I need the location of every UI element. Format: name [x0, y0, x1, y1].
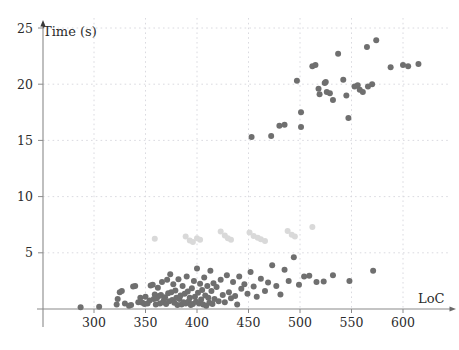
data-point [132, 283, 138, 289]
data-point [152, 236, 158, 242]
data-point [205, 295, 211, 301]
y-tick-label: 10 [17, 189, 33, 204]
data-point [273, 283, 279, 289]
data-point [276, 123, 282, 129]
data-point [119, 288, 125, 294]
scatter-plot-figure: 300350400450500550600510152025 Time (s) … [0, 0, 459, 350]
data-point [309, 224, 315, 230]
data-point [388, 64, 394, 70]
data-point [155, 285, 161, 291]
x-axis-title: LoC [418, 291, 444, 306]
data-point [214, 284, 220, 290]
x-tick-label: 350 [134, 315, 158, 330]
y-tick-label: 25 [17, 21, 33, 36]
data-point [244, 291, 250, 297]
data-point [298, 109, 304, 115]
data-point [159, 279, 165, 285]
data-point [277, 291, 283, 297]
data-point [327, 90, 333, 96]
data-point [207, 268, 213, 274]
tick-marks [38, 28, 403, 313]
data-point [197, 281, 203, 287]
data-point [226, 289, 232, 295]
data-point [335, 51, 341, 57]
data-point [249, 134, 255, 140]
x-tick-label: 400 [185, 315, 209, 330]
data-point [373, 37, 379, 43]
data-point [96, 304, 102, 310]
data-point [369, 81, 375, 87]
data-point [254, 294, 260, 300]
data-point [175, 276, 181, 282]
x-tick-label: 550 [340, 315, 364, 330]
data-point [172, 287, 178, 293]
data-point [340, 77, 346, 83]
data-point [222, 299, 228, 305]
scatter-series-low-time-group [78, 254, 377, 310]
data-point [345, 115, 351, 121]
data-point [128, 302, 134, 308]
data-point [330, 272, 336, 278]
data-point [78, 304, 84, 310]
scatter-series-high-time-group [249, 37, 422, 140]
data-point [114, 302, 120, 308]
data-point [262, 288, 268, 294]
data-point [296, 282, 302, 288]
data-point [234, 302, 240, 308]
data-point [316, 86, 322, 92]
x-tick-label: 450 [237, 315, 261, 330]
x-tick-label: 500 [288, 315, 312, 330]
data-point [346, 278, 352, 284]
data-point [191, 278, 197, 284]
data-point [313, 279, 319, 285]
data-point [294, 78, 300, 84]
data-point [343, 92, 349, 98]
data-point [292, 234, 298, 240]
data-point [164, 277, 170, 283]
data-point [232, 293, 238, 299]
data-point [115, 296, 121, 302]
data-point [360, 89, 366, 95]
data-point [306, 273, 312, 279]
data-point [321, 278, 327, 284]
data-point [170, 281, 176, 287]
data-point [194, 266, 200, 272]
data-point [248, 269, 254, 275]
data-point [265, 280, 271, 286]
data-point [405, 63, 411, 69]
data-point [291, 254, 297, 260]
data-point [224, 272, 230, 278]
data-point [415, 61, 421, 67]
y-axis-title: Time (s) [43, 24, 97, 39]
data-point [167, 271, 173, 277]
data-point [197, 237, 203, 243]
data-point [236, 273, 242, 279]
data-point [216, 298, 222, 304]
data-point [241, 281, 247, 287]
x-tick-label: 600 [391, 315, 415, 330]
y-tick-label: 5 [25, 245, 33, 260]
data-point [317, 91, 323, 97]
data-point [208, 288, 214, 294]
data-point [298, 124, 304, 130]
data-point [282, 122, 288, 128]
data-point [187, 295, 193, 301]
data-point [251, 284, 257, 290]
data-points [78, 37, 422, 310]
data-point [204, 283, 210, 289]
data-point [184, 273, 190, 279]
data-point [364, 44, 370, 50]
data-point [258, 276, 264, 282]
data-point [268, 133, 274, 139]
data-point [301, 273, 307, 279]
data-point [150, 282, 156, 288]
data-point [201, 275, 207, 281]
data-point [312, 62, 318, 68]
data-point [189, 285, 195, 291]
x-axis-arrow [450, 306, 457, 311]
y-tick-label: 15 [17, 133, 33, 148]
data-point [218, 277, 224, 283]
gridlines [43, 18, 448, 309]
data-point [180, 283, 186, 289]
x-tick-label: 300 [82, 315, 106, 330]
